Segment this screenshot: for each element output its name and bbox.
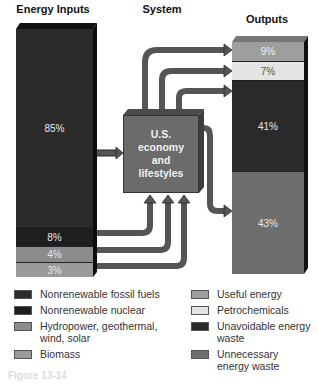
legend-item: Unavoidable energy waste [191, 320, 316, 344]
legend-item: Petrochemicals [191, 304, 316, 316]
legend-label: Nonrenewable fossil fuels [40, 288, 160, 300]
output-petro-pct: 7% [261, 66, 275, 77]
input-nuclear-pct: 8% [47, 232, 61, 243]
inputs-column: 85% 8% 4% 3% [16, 29, 93, 277]
legend-outputs: Useful energy Petrochemicals Unavoidable… [191, 288, 316, 376]
legend-label: Nonrenewable nuclear [40, 304, 145, 316]
output-useful-energy: 9% [232, 42, 304, 61]
output-unavoidable-waste: 41% [232, 80, 304, 171]
legend-swatch-petro [191, 306, 209, 315]
legend-item: Hydropower, geothermal, wind, solar [14, 320, 164, 344]
legend-label: Petrochemicals [217, 304, 289, 316]
legend-swatch-unavoidable [191, 322, 209, 331]
input-fossil-fuels-pct: 85% [44, 123, 64, 134]
input-hydro-wind-solar: 4% [16, 246, 93, 262]
legend-item: Useful energy [191, 288, 316, 300]
system-line-3: and [138, 154, 184, 167]
legend-item: Biomass [14, 348, 164, 360]
legend-label: Useful energy [217, 288, 282, 300]
input-fossil-fuels: 85% [16, 29, 93, 227]
outputs-column: 9% 7% 41% 43% [232, 42, 304, 274]
input-biomass-pct: 3% [47, 265, 61, 276]
legend-swatch-nuclear [14, 306, 32, 315]
legend-swatch-fossil [14, 290, 32, 299]
input-biomass: 3% [16, 262, 93, 277]
output-useful-pct: 9% [261, 46, 275, 57]
system-box: U.S. economy and lifestyles [123, 115, 199, 193]
output-unnecessary-waste: 43% [232, 171, 304, 274]
input-nuclear: 8% [16, 227, 93, 246]
input-hydro-pct: 4% [47, 249, 61, 260]
figure-caption: Figure 13-14 [8, 370, 67, 381]
legend-inputs: Nonrenewable fossil fuels Nonrenewable n… [14, 288, 164, 364]
system-line-2: economy [138, 141, 184, 154]
legend-label: Biomass [40, 348, 80, 360]
legend-item: Nonrenewable fossil fuels [14, 288, 164, 300]
legend-swatch-useful [191, 290, 209, 299]
legend-label: Hydropower, geothermal, wind, solar [40, 320, 158, 344]
legend-label: Unavoidable energy waste [217, 320, 312, 344]
legend-item: Unnecessary energy waste [191, 348, 316, 372]
output-unavoidable-pct: 41% [258, 121, 278, 132]
legend-item: Nonrenewable nuclear [14, 304, 164, 316]
system-line-1: U.S. [138, 128, 184, 141]
legend-swatch-unnecessary [191, 350, 209, 359]
system-line-4: lifestyles [138, 167, 184, 180]
output-unnecessary-pct: 43% [258, 218, 278, 229]
legend-swatch-biomass [14, 350, 32, 359]
legend-swatch-hydro [14, 322, 32, 331]
legend-label: Unnecessary energy waste [217, 348, 312, 372]
output-petrochemicals: 7% [232, 61, 304, 80]
